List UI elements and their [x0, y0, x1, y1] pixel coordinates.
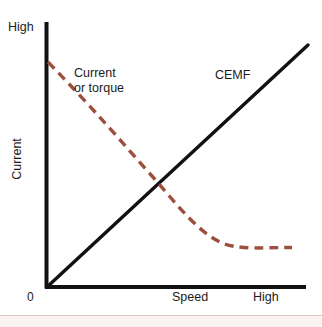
cemf-series-label: CEMF: [215, 68, 250, 82]
chart-figure: High Current 0 Speed High CEMF Currentor…: [0, 0, 322, 327]
current-torque-series-label-line2: or torque: [74, 81, 124, 95]
chart-plot-area: [0, 0, 322, 327]
y-axis-max-label: High: [8, 20, 34, 34]
current-torque-series-label: Currentor torque: [74, 66, 124, 96]
x-axis-title: Speed: [172, 290, 208, 304]
y-axis-title: Current: [10, 129, 24, 189]
bottom-accent-band: [0, 315, 322, 327]
current-torque-series-label-line1: Current: [74, 66, 116, 80]
x-axis-zero-label: 0: [27, 290, 34, 304]
x-axis-max-label: High: [253, 290, 279, 304]
